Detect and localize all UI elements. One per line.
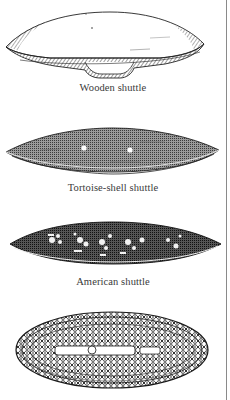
- ornate-shuttle-illustration: [0, 308, 226, 392]
- figure-american-shuttle: American shuttle: [0, 212, 226, 302]
- caption-american-shuttle: American shuttle: [0, 276, 226, 287]
- illustration-page: Wooden shuttle Tortoise-shell shuttle: [0, 0, 230, 400]
- american-shuttle-illustration: [0, 212, 226, 268]
- tortoise-shell-shuttle-illustration: [0, 112, 226, 178]
- figure-wooden-shuttle: Wooden shuttle: [0, 0, 226, 100]
- figure-ornate-shuttle: [0, 308, 226, 400]
- caption-tortoise-shell-shuttle: Tortoise-shell shuttle: [0, 182, 226, 193]
- wooden-shuttle-illustration: [0, 0, 226, 84]
- margin-rule: [226, 0, 227, 400]
- figure-tortoise-shell-shuttle: Tortoise-shell shuttle: [0, 112, 226, 202]
- caption-wooden-shuttle: Wooden shuttle: [0, 82, 226, 93]
